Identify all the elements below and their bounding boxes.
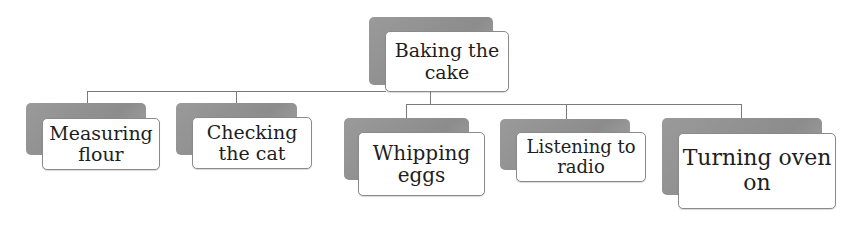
node-label-line-2: flour <box>49 144 153 165</box>
node-label-line-1: Measuring <box>49 123 153 144</box>
node-label-line-2: radio <box>526 157 635 177</box>
node-box: Turning oven on <box>678 133 836 209</box>
connector-right-drop-1 <box>406 104 407 119</box>
connector-right-horizontal <box>406 104 742 105</box>
node-label-line-1: Checking <box>207 122 298 143</box>
node-label-line-2: on <box>683 171 832 196</box>
connector-right-drop-3 <box>741 104 742 119</box>
node-label-line-2: cake <box>395 62 499 83</box>
node-box: Measuring flour <box>42 118 160 170</box>
node-label-line-1: Turning oven <box>683 146 832 171</box>
node-label-line-2: the cat <box>207 143 298 164</box>
node-box: Checking the cat <box>192 117 312 169</box>
node-label-line-1: Baking the <box>395 40 499 61</box>
node-box: Whipping eggs <box>358 132 485 196</box>
node-box: Listening to radio <box>516 132 646 182</box>
node-label-line-1: Whipping <box>373 142 471 164</box>
connector-right-drop-2 <box>566 104 567 119</box>
node-label-line-1: Listening to <box>526 137 635 157</box>
node-box: Baking the cake <box>385 31 509 92</box>
node-label-line-2: eggs <box>373 164 471 186</box>
